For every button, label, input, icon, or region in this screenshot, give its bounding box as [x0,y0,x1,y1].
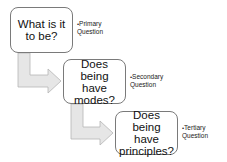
step-box-tertiary: Does being have principles? [115,111,178,155]
step-label: Tertiary Question [182,124,208,139]
step-label-secondary: •Secondary Question [130,73,174,89]
step-label-tertiary: •Tertiary Question [182,124,222,140]
step-label: Secondary Question [130,73,163,88]
step-box-primary: What is it to be? [10,7,73,53]
step-label: Primary Question [77,20,103,35]
step-box-secondary: Does being have modes? [63,59,126,104]
step-question: Does being have modes? [67,58,122,106]
bent-arrow-1-to-2 [18,53,61,93]
step-label-primary: •Primary Question [77,20,117,36]
bent-arrow-2-to-3 [71,104,113,145]
step-question: What is it to be? [14,18,69,42]
step-question: Does being have principles? [119,109,174,157]
